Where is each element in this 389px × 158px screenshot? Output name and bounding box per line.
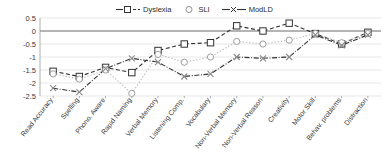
data-point-sli-6 (207, 54, 213, 60)
data-point-dyslexia-8 (260, 28, 266, 34)
y-axis-tick-label: -2 (29, 79, 36, 88)
data-point-sli-2 (102, 67, 108, 73)
y-axis-tick-label: 0.5 (26, 14, 36, 23)
data-point-sli-3 (129, 90, 135, 96)
line-chart: Dyslexia SLI ModLD 0.50-0.5-1-1.5-2-2. (0, 0, 389, 158)
data-point-sli-7 (234, 38, 240, 44)
data-point-modld-1 (76, 89, 82, 95)
y-axis-tick-label: -1.5 (23, 66, 36, 75)
x-axis-tick-label: Distraction (343, 96, 369, 126)
plot-area: 0.50-0.5-1-1.5-2-2.5Read AccuracySpellin… (0, 0, 389, 158)
x-axis-tick-label: Vocabulary (184, 96, 212, 129)
data-point-dyslexia-5 (181, 41, 187, 47)
data-point-sli-8 (260, 41, 266, 47)
data-point-dyslexia-6 (207, 40, 213, 46)
y-axis-tick-label: -1 (29, 53, 36, 62)
x-axis-tick-label: Read Accuracy (19, 96, 55, 138)
data-point-sli-9 (286, 37, 292, 43)
data-point-sli-1 (76, 76, 82, 82)
data-point-sli-5 (181, 59, 187, 65)
data-point-modld-3 (129, 55, 135, 61)
data-point-dyslexia-9 (286, 20, 292, 26)
y-axis-tick-label: 0 (32, 27, 36, 36)
data-point-dyslexia-7 (234, 23, 240, 29)
x-axis-tick-label: Spelling (59, 96, 81, 121)
x-axis-tick-label: Creativity (266, 96, 291, 124)
data-point-dyslexia-3 (129, 69, 135, 75)
data-point-sli-12 (365, 30, 371, 36)
y-axis-tick-label: -2.5 (23, 92, 36, 101)
x-axis-tick-label: Motor Skill (291, 96, 317, 126)
y-axis-tick-label: -0.5 (23, 40, 36, 49)
data-point-sli-4 (155, 51, 161, 57)
data-point-sli-10 (312, 30, 318, 36)
data-point-sli-0 (50, 71, 56, 77)
